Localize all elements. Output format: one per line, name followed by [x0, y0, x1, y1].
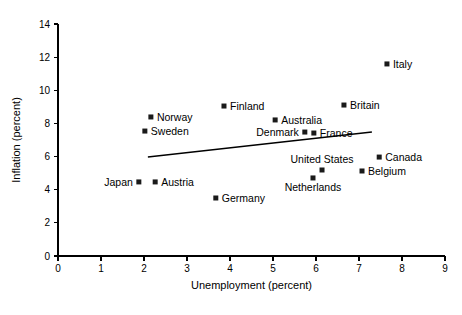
point-label-denmark: Denmark [256, 126, 299, 138]
data-point-belgium[interactable]: Belgium [360, 165, 407, 177]
marker-square-icon [311, 131, 316, 136]
marker-square-icon [221, 104, 226, 109]
point-label-france: France [320, 127, 353, 139]
x-axis-title: Unemployment (percent) [191, 279, 312, 291]
marker-square-icon [136, 179, 141, 184]
x-tick-label-8: 8 [399, 263, 405, 274]
point-label-italy: Italy [393, 58, 413, 70]
y-tick-label-14: 14 [39, 19, 51, 30]
marker-square-icon [384, 61, 389, 66]
marker-square-icon [320, 167, 325, 172]
marker-square-icon [148, 114, 153, 119]
marker-square-icon [377, 155, 382, 160]
y-tick-label-2: 2 [44, 217, 50, 228]
marker-square-icon [360, 168, 365, 173]
y-tick-label-6: 6 [44, 151, 50, 162]
marker-square-icon [341, 103, 346, 108]
x-tick-label-4: 4 [227, 263, 233, 274]
y-tick-label-8: 8 [44, 118, 50, 129]
x-tick-label-2: 2 [141, 263, 147, 274]
point-label-germany: Germany [222, 192, 266, 204]
data-point-japan[interactable]: Japan [104, 176, 141, 188]
point-label-finland: Finland [230, 100, 265, 112]
data-point-sweden[interactable]: Sweden [142, 125, 189, 137]
chart-page: 012345678902468101214 ItalyBritainFinlan… [0, 0, 462, 315]
point-label-britain: Britain [350, 99, 380, 111]
data-point-finland[interactable]: Finland [221, 100, 264, 112]
x-tick-label-1: 1 [98, 263, 104, 274]
point-label-belgium: Belgium [368, 165, 406, 177]
marker-square-icon [142, 129, 147, 134]
x-tick-label-7: 7 [356, 263, 362, 274]
data-point-germany[interactable]: Germany [213, 192, 265, 204]
data-point-austria[interactable]: Austria [153, 176, 194, 188]
x-tick-label-6: 6 [313, 263, 319, 274]
data-point-italy[interactable]: Italy [384, 58, 413, 70]
point-label-norway: Norway [157, 111, 193, 123]
point-label-austria: Austria [161, 176, 194, 188]
marker-square-icon [310, 175, 315, 180]
point-label-australia: Australia [281, 114, 322, 126]
data-point-canada[interactable]: Canada [377, 151, 422, 163]
data-point-australia[interactable]: Australia [273, 114, 323, 126]
data-point-denmark[interactable]: Denmark [256, 126, 307, 138]
y-tick-label-0: 0 [44, 251, 50, 262]
point-label-netherlands: Netherlands [285, 181, 342, 193]
marker-square-icon [273, 117, 278, 122]
data-point-netherlands[interactable]: Netherlands [285, 175, 342, 193]
marker-square-icon [213, 196, 218, 201]
marker-square-icon [153, 179, 158, 184]
data-point-norway[interactable]: Norway [148, 111, 193, 123]
x-tick-label-0: 0 [55, 263, 61, 274]
point-label-canada: Canada [385, 151, 422, 163]
data-point-france[interactable]: France [311, 127, 352, 139]
point-label-sweden: Sweden [151, 125, 189, 137]
y-axis-title: Inflation (percent) [10, 97, 22, 183]
y-tick-label-4: 4 [44, 184, 50, 195]
x-tick-label-5: 5 [270, 263, 276, 274]
marker-square-icon [302, 130, 307, 135]
data-points-group: ItalyBritainFinlandNorwayAustraliaSweden… [104, 58, 422, 204]
y-tick-label-10: 10 [39, 85, 51, 96]
data-point-united-states[interactable]: United States [290, 153, 353, 173]
data-point-britain[interactable]: Britain [341, 99, 379, 111]
y-tick-label-12: 12 [39, 52, 51, 63]
x-tick-label-3: 3 [184, 263, 190, 274]
x-tick-label-9: 9 [442, 263, 448, 274]
point-label-united-states: United States [290, 153, 353, 165]
scatter-plot: 012345678902468101214 ItalyBritainFinlan… [0, 0, 462, 315]
point-label-japan: Japan [104, 176, 133, 188]
